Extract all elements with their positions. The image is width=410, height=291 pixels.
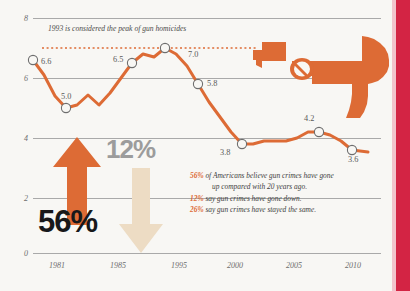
point-label-5-8: 5.8 xyxy=(207,79,217,88)
point-label-6-6: 6.6 xyxy=(41,57,51,66)
data-point-1990 xyxy=(127,58,136,67)
point-label-3-8: 3.8 xyxy=(220,148,230,157)
data-point-1981 xyxy=(28,55,37,64)
data-point-1996 xyxy=(193,79,202,88)
arrow-down-icon xyxy=(119,168,163,253)
red-edge-bar xyxy=(396,0,410,291)
stat-12-percent: 12% xyxy=(106,134,155,165)
data-point-1984 xyxy=(61,103,70,112)
key-line-2: 12% say gun crimes have gone down. xyxy=(190,193,375,204)
key-text-1: of Americans believe gun crimes have gon… xyxy=(205,171,333,180)
key-text-block: 56% of Americans believe gun crimes have… xyxy=(190,170,375,216)
key-text-3: say gun crimes have stayed the same. xyxy=(205,205,316,214)
data-point-1993 xyxy=(160,43,169,52)
point-label-6-5: 6.5 xyxy=(113,55,123,64)
point-label-7-0: 7.0 xyxy=(188,50,198,59)
stat-56-percent: 56% xyxy=(38,204,97,240)
data-point-2010 xyxy=(347,145,356,154)
infographic-root: 8 6 4 2 0 1981 1985 1995 2000 2005 2010 … xyxy=(0,0,410,291)
point-label-4-2: 4.2 xyxy=(304,114,314,123)
point-label-3-6: 3.6 xyxy=(348,155,358,164)
key-pct-12: 12% xyxy=(190,194,204,203)
point-label-5-0: 5.0 xyxy=(61,92,71,101)
key-line-1: 56% of Americans believe gun crimes have… xyxy=(190,170,375,181)
key-pct-26: 26% xyxy=(190,205,204,214)
key-pct-56: 56% xyxy=(190,171,204,180)
key-line-3: 26% say gun crimes have stayed the same. xyxy=(190,204,375,215)
data-point-2000 xyxy=(237,139,246,148)
key-text-2: say gun crimes have gone down. xyxy=(205,194,301,203)
data-point-2007 xyxy=(314,127,323,136)
key-line-1-cont: up compared with 20 years ago. xyxy=(190,181,375,192)
